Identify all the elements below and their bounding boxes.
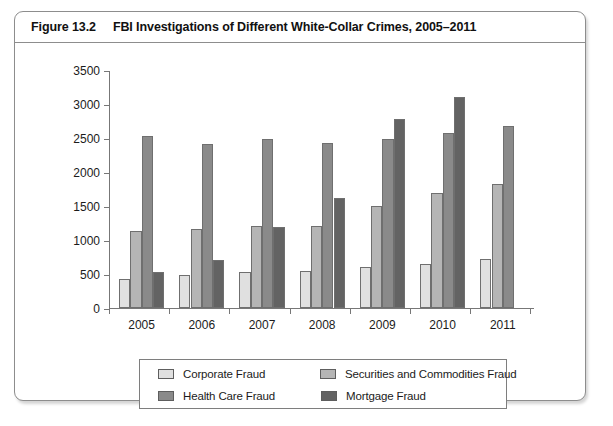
bar <box>431 193 442 308</box>
x-axis-label: 2007 <box>249 318 276 332</box>
y-axis-tick-label: 500 <box>80 268 100 282</box>
x-axis-tick <box>109 309 110 314</box>
bar <box>213 260 224 308</box>
legend-swatch-corporate-fraud-icon <box>158 369 174 379</box>
y-axis-tick-label: 3000 <box>73 98 100 112</box>
bar <box>454 97 465 308</box>
bar <box>480 259 491 308</box>
bar <box>179 275 190 308</box>
y-axis-tick-label: 2500 <box>73 132 100 146</box>
bar <box>394 119 405 308</box>
y-axis-tick <box>104 71 109 72</box>
bar <box>492 184 503 308</box>
x-axis-tick <box>350 309 351 314</box>
bar <box>142 136 153 308</box>
legend-item-securities-and-commodities-fraud: Securities and Commodities Fraud <box>311 363 506 385</box>
legend-label-health-care-fraud: Health Care Fraud <box>183 390 275 402</box>
bar <box>503 126 514 308</box>
bar <box>420 264 431 308</box>
figure-title: FBI Investigations of Different White-Co… <box>113 20 476 34</box>
y-axis-tick-label: 1500 <box>73 200 100 214</box>
legend-swatch-health-care-fraud-icon <box>158 391 174 401</box>
x-axis-label: 2009 <box>369 318 396 332</box>
y-axis-tick-label: 0 <box>93 302 100 316</box>
y-axis-tick <box>104 105 109 106</box>
bar <box>334 198 345 308</box>
x-axis-tick <box>410 309 411 314</box>
y-axis-tick <box>104 275 109 276</box>
legend-item-corporate-fraud: Corporate Fraud <box>140 363 311 385</box>
x-axis-tick <box>470 309 471 314</box>
legend-swatch-mortgage-fraud-icon <box>321 391 337 401</box>
y-axis-tick <box>104 207 109 208</box>
bar <box>300 271 311 308</box>
y-axis-tick-label: 3500 <box>73 64 100 78</box>
legend-row: Health Care Fraud Mortgage Fraud <box>140 385 506 407</box>
legend-label-mortgage-fraud: Mortgage Fraud <box>346 390 426 402</box>
legend-swatch-securities-and-commodities-fraud-icon <box>320 369 336 379</box>
chart-legend: Corporate Fraud Securities and Commoditi… <box>139 359 507 409</box>
bar <box>130 231 141 308</box>
legend-label-securities-and-commodities-fraud: Securities and Commodities Fraud <box>345 368 517 380</box>
x-axis-label: 2011 <box>490 318 516 332</box>
bar <box>371 206 382 308</box>
figure-frame: Figure 13.2 FBI Investigations of Differ… <box>14 11 586 401</box>
x-axis-tick <box>530 309 531 314</box>
y-axis-line <box>109 71 110 310</box>
x-axis-label: 2005 <box>128 318 155 332</box>
legend-label-corporate-fraud: Corporate Fraud <box>183 368 265 380</box>
bar <box>273 227 284 308</box>
legend-item-health-care-fraud: Health Care Fraud <box>140 385 312 407</box>
y-axis-tick-label: 2000 <box>73 166 100 180</box>
bar <box>360 267 371 308</box>
bar <box>311 226 322 308</box>
legend-item-mortgage-fraud: Mortgage Fraud <box>312 385 506 407</box>
legend-row: Corporate Fraud Securities and Commoditi… <box>140 363 506 385</box>
bar <box>239 272 250 308</box>
figure-number: Figure 13.2 <box>31 20 96 34</box>
y-axis-tick <box>104 173 109 174</box>
x-axis-tick <box>290 309 291 314</box>
y-axis-tick <box>104 139 109 140</box>
x-axis-label: 2006 <box>188 318 215 332</box>
plot-area: 0500100015002000250030003500 20052006200… <box>109 71 543 309</box>
chart-body: 0500100015002000250030003500 20052006200… <box>15 43 585 400</box>
bar <box>443 133 454 308</box>
x-axis-tick <box>169 309 170 314</box>
bar <box>251 226 262 308</box>
bar <box>202 144 213 308</box>
bar <box>119 279 130 308</box>
bar <box>382 139 393 308</box>
bar <box>191 229 202 308</box>
x-axis-tick <box>229 309 230 314</box>
bar <box>322 143 333 308</box>
bar <box>153 272 164 308</box>
y-axis-tick-label: 1000 <box>73 234 100 248</box>
figure-title-bar: Figure 13.2 FBI Investigations of Differ… <box>15 12 585 43</box>
x-axis-label: 2010 <box>429 318 456 332</box>
x-axis-label: 2008 <box>309 318 336 332</box>
y-axis-tick <box>104 241 109 242</box>
bar <box>262 139 273 308</box>
